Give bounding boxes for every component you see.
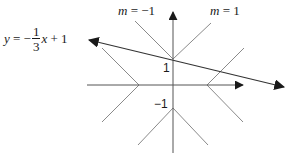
line-y-neg-third-x-plus-1: [89, 40, 284, 87]
guide-upper-left: [135, 21, 173, 59]
tick-label-y-1: 1: [163, 62, 170, 74]
diagram-canvas: [0, 0, 289, 156]
slope-var: m: [118, 3, 127, 18]
equals-sign: =: [219, 3, 233, 18]
guide-lower-right: [173, 108, 208, 145]
guide-upper-right: [173, 23, 211, 59]
equation-constant: + 1: [47, 31, 67, 47]
label-line-equation: y = − 1 3 x + 1: [4, 25, 68, 53]
guide-left-upper: [102, 48, 139, 85]
equation-equals-minus: = −: [10, 31, 31, 47]
label-slope-pos-one: m = 1: [210, 4, 240, 17]
slope-value: 1: [233, 3, 240, 18]
label-slope-neg-one: m = −1: [118, 4, 155, 17]
equals-sign: =: [127, 3, 141, 18]
slope-value: −1: [141, 3, 155, 18]
fraction-denominator: 3: [32, 39, 41, 53]
tick-label-y-neg1: −1: [154, 98, 168, 110]
fraction-numerator: 1: [32, 25, 41, 39]
guide-right-upper: [207, 48, 244, 85]
equation-fraction: 1 3: [32, 25, 41, 53]
guide-left-lower: [102, 85, 139, 122]
guide-lower-left: [138, 108, 173, 145]
slope-var: m: [210, 3, 219, 18]
guide-right-lower: [207, 85, 243, 122]
